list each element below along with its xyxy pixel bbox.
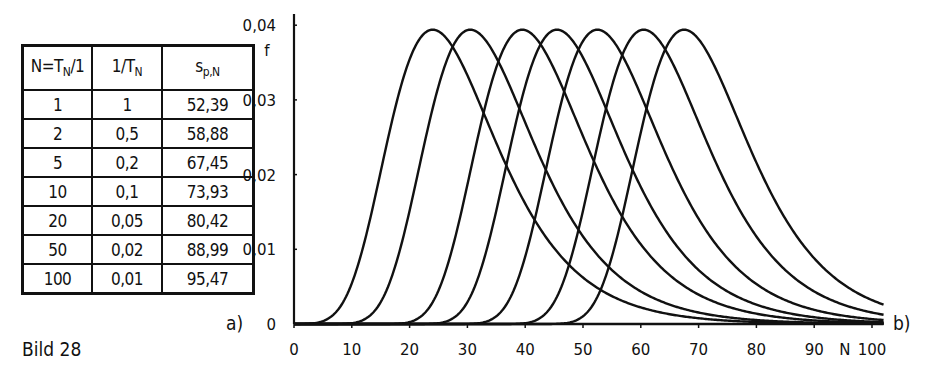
x-axis-label: N (839, 341, 850, 359)
x-tick-label: 70 (689, 341, 708, 359)
y-axis-label: f (264, 42, 270, 60)
y-tick-label: 0,02 (243, 167, 276, 185)
y-tick-label: 0,01 (243, 241, 276, 259)
x-tick-label: 60 (631, 341, 650, 359)
y-tick-label: 0,03 (243, 92, 276, 110)
x-tick-label: 10 (342, 341, 361, 359)
x-tick-label: 50 (573, 341, 592, 359)
x-tick-label: 30 (458, 341, 477, 359)
density-chart: 0102030405060708090100N00,010,020,030,04… (0, 0, 926, 373)
x-tick-label: 90 (805, 341, 824, 359)
x-tick-label: 0 (289, 341, 299, 359)
x-tick-label: 100 (858, 341, 887, 359)
chart-curves (294, 30, 884, 324)
x-tick-label: 80 (747, 341, 766, 359)
x-tick-label: 20 (400, 341, 419, 359)
density-curve-curve-6 (294, 30, 884, 324)
y-tick-label: 0 (266, 316, 276, 334)
y-tick-label: 0,04 (243, 17, 276, 35)
x-tick-label: 40 (516, 341, 535, 359)
